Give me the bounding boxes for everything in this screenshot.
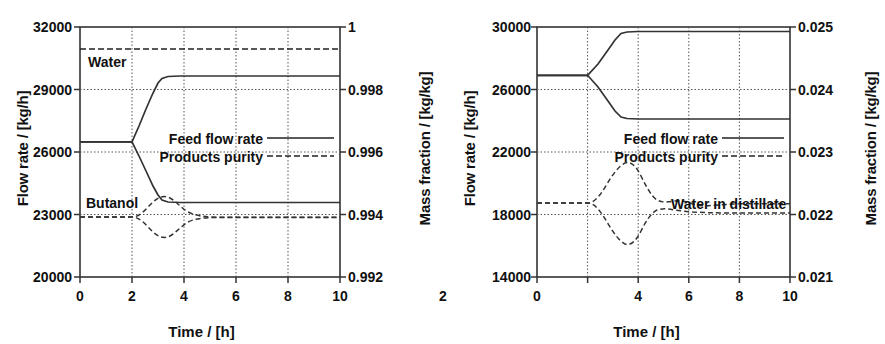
annotation-water-in-distillate: Water in distillate xyxy=(671,196,786,212)
plot-area-left xyxy=(0,0,443,344)
legend-label-products-purity: Products purity xyxy=(150,149,263,165)
legend-label-feed-flow: Feed flow rate xyxy=(150,131,263,147)
chart-panel-right: Flow rate / [kg/h] Mass fraction / [kg/k… xyxy=(443,0,885,344)
plot-area-right xyxy=(443,0,885,344)
annotation-water: Water xyxy=(88,54,126,70)
annotation-butanol: Butanol xyxy=(86,195,138,211)
series-butanol-purity-lower xyxy=(80,217,340,237)
legend-label-feed-flow: Feed flow rate xyxy=(605,131,718,147)
legend-label-products-purity: Products purity xyxy=(605,149,718,165)
series-feed-flow-upper xyxy=(537,32,790,76)
series-feed-flow-lower xyxy=(537,75,790,119)
figure-two-panel-chart: Flow rate / [kg/h] Mass fraction / [kg/k… xyxy=(0,0,885,344)
chart-panel-left: Flow rate / [kg/h] Mass fraction / [kg/k… xyxy=(0,0,443,344)
